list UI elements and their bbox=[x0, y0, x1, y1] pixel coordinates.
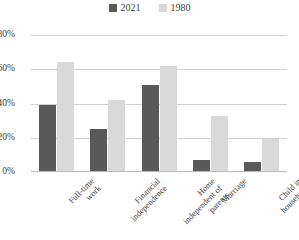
bar-group bbox=[236, 35, 287, 172]
bar-2021 bbox=[90, 129, 107, 172]
plot-area: 0%20%40%60%80% bbox=[31, 35, 287, 172]
legend-swatch-2021 bbox=[109, 4, 117, 12]
legend-item-1980: 1980 bbox=[159, 3, 191, 13]
bar-1980 bbox=[108, 100, 125, 172]
x-axis-labels: Full-timeworkFinancialindependenceHomein… bbox=[31, 172, 287, 240]
legend-item-2021: 2021 bbox=[109, 3, 141, 13]
bar-1980 bbox=[57, 62, 74, 172]
x-axis-label: Full-timework bbox=[66, 176, 103, 213]
y-axis-tick-label: 20% bbox=[0, 133, 15, 143]
y-axis-tick-label: 40% bbox=[0, 99, 15, 109]
x-axis-label: Child inhousehold bbox=[272, 176, 299, 215]
bar-groups bbox=[31, 35, 287, 172]
legend-swatch-1980 bbox=[159, 4, 167, 12]
bar-2021 bbox=[39, 105, 56, 172]
bar-group bbox=[133, 35, 184, 172]
legend-label-2021: 2021 bbox=[121, 3, 141, 13]
y-axis-tick-label: 80% bbox=[0, 30, 15, 40]
chart-legend: 2021 1980 bbox=[0, 3, 299, 13]
bar-group bbox=[31, 35, 82, 172]
y-axis-tick-label: 0% bbox=[0, 167, 15, 177]
bar-1980 bbox=[262, 139, 279, 172]
legend-label-1980: 1980 bbox=[171, 3, 191, 13]
bar-group bbox=[82, 35, 133, 172]
bar-1980 bbox=[160, 66, 177, 172]
y-axis-tick-label: 60% bbox=[0, 65, 15, 75]
bar-1980 bbox=[211, 116, 228, 173]
bar-group bbox=[185, 35, 236, 172]
bar-2021 bbox=[142, 85, 159, 172]
bar-chart: 2021 1980 0%20%40%60%80% Full-timeworkFi… bbox=[0, 0, 299, 240]
x-axis-label: Homeindependent ofparents bbox=[174, 176, 231, 233]
x-axis-label: Financialindependence bbox=[121, 176, 168, 223]
